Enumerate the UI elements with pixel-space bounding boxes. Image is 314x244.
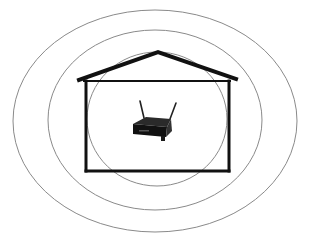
diagram-canvas: Wi-Fi router signal coverage in a house <box>0 0 314 244</box>
wifi-coverage-diagram <box>0 0 314 244</box>
house-roof <box>79 52 236 80</box>
router-icon <box>133 101 176 141</box>
house <box>79 52 236 171</box>
